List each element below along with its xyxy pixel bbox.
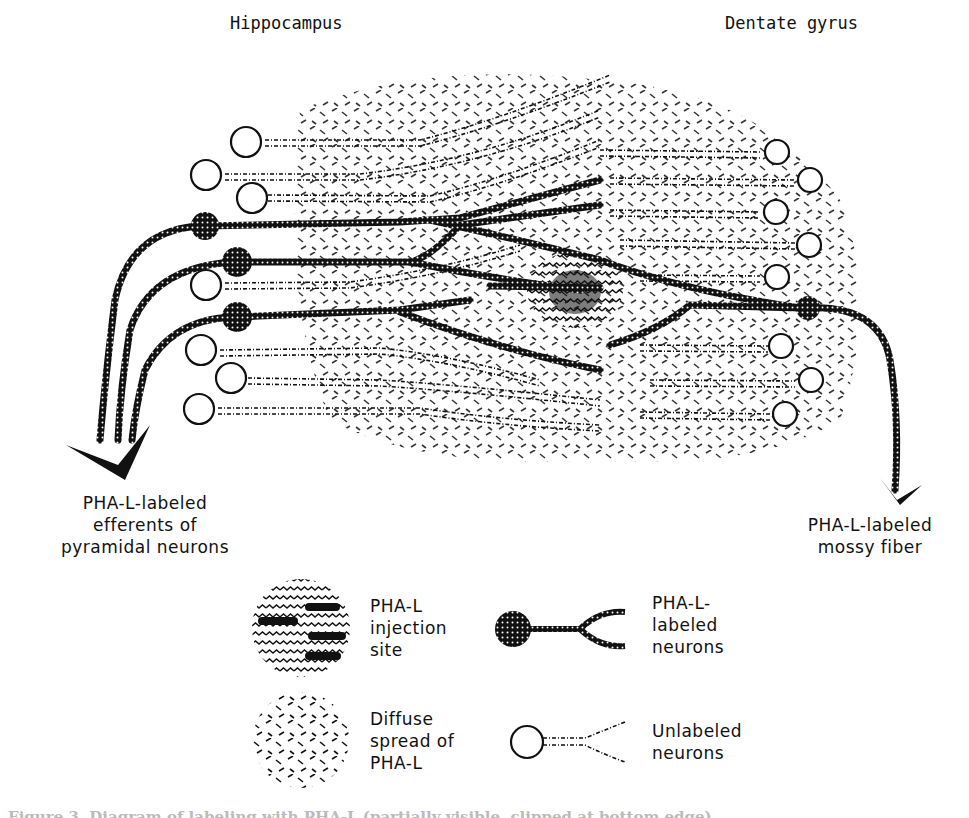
unlabeled-neuron-icon — [511, 722, 625, 762]
injection-site-icon — [252, 579, 350, 677]
legend-line: neurons — [652, 636, 724, 658]
legend-diffuse-spread: Diffuse spread of PHA-L — [370, 708, 454, 774]
legend-line: PHA-L- — [652, 592, 724, 614]
annotation-line: PHA-L-labeled — [30, 492, 260, 514]
labeled-neuron-icon — [495, 611, 625, 647]
annotation-efferents: PHA-L-labeled efferents of pyramidal neu… — [30, 492, 260, 558]
legend-line: injection — [370, 617, 447, 639]
annotation-line: efferents of — [30, 514, 260, 536]
region-label-dentate-gyrus: Dentate gyrus — [725, 13, 858, 33]
neuron-diagram — [0, 0, 969, 818]
legend-injection-site: PHA-L injection site — [370, 595, 447, 661]
annotation-line: pyramidal neurons — [30, 536, 260, 558]
annotation-mossy-fiber: PHA-L-labeled mossy fiber — [775, 514, 965, 558]
legend-line: labeled — [652, 614, 724, 636]
figure-caption: Figure 3. Diagram of labeling with PHA-L… — [8, 806, 963, 818]
mossy-fiber-arrowhead — [880, 478, 922, 505]
legend-line: PHA-L — [370, 595, 447, 617]
annotation-line: mossy fiber — [775, 536, 965, 558]
legend-line: spread of — [370, 730, 454, 752]
legend-line: site — [370, 639, 447, 661]
legend-line: neurons — [652, 742, 742, 764]
efferent-arrowhead — [66, 425, 150, 480]
legend-line: PHA-L — [370, 752, 454, 774]
legend-line: Unlabeled — [652, 720, 742, 742]
legend-line: Diffuse — [370, 708, 454, 730]
legend-unlabeled-neurons: Unlabeled neurons — [652, 720, 742, 764]
diffuse-spread-icon — [253, 692, 349, 788]
region-label-hippocampus: Hippocampus — [230, 13, 343, 33]
annotation-line: PHA-L-labeled — [775, 514, 965, 536]
legend-labeled-neurons: PHA-L- labeled neurons — [652, 592, 724, 658]
